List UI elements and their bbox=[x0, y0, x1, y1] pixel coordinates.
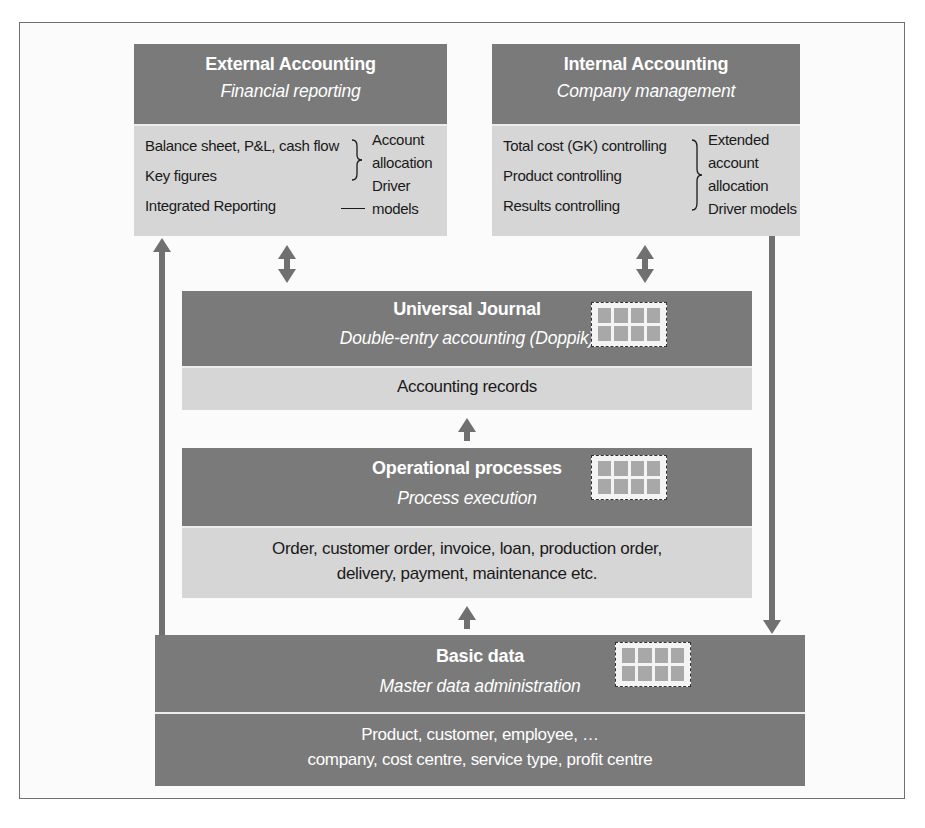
external-item: Integrated Reporting bbox=[145, 197, 276, 214]
internal-accounting-header: Internal Accounting Company management bbox=[492, 44, 800, 124]
external-note: Account bbox=[372, 131, 424, 148]
basic-data-box: Basic data Master data administration Pr… bbox=[155, 635, 805, 786]
table-grid-icon bbox=[591, 302, 667, 347]
external-item: Key figures bbox=[145, 167, 217, 184]
internal-note: Driver models bbox=[708, 200, 797, 217]
basic-data-body-line: Product, customer, employee, … bbox=[155, 722, 805, 747]
internal-accounting-body: Total cost (GK) controlling Product cont… bbox=[492, 124, 800, 236]
basic-data-subtitle: Master data administration bbox=[155, 676, 805, 697]
operational-body-line: Order, customer order, invoice, loan, pr… bbox=[182, 536, 752, 561]
universal-journal-box: Universal Journal Double-entry accountin… bbox=[182, 291, 752, 410]
external-accounting-box: External Accounting Financial reporting … bbox=[134, 44, 447, 236]
external-accounting-header: External Accounting Financial reporting bbox=[134, 44, 447, 124]
universal-journal-body-text: Accounting records bbox=[182, 377, 752, 397]
operational-body-line: delivery, payment, maintenance etc. bbox=[182, 561, 752, 586]
operational-processes-body: Order, customer order, invoice, loan, pr… bbox=[182, 526, 752, 598]
internal-item: Total cost (GK) controlling bbox=[503, 137, 667, 154]
external-item: Balance sheet, P&L, cash flow bbox=[145, 137, 339, 154]
internal-accounting-box: Internal Accounting Company management T… bbox=[492, 44, 800, 236]
internal-note: Extended bbox=[708, 131, 769, 148]
external-accounting-body: Balance sheet, P&L, cash flow Key figure… bbox=[134, 124, 447, 236]
external-accounting-subtitle: Financial reporting bbox=[134, 81, 447, 102]
internal-item: Results controlling bbox=[503, 197, 620, 214]
internal-accounting-title: Internal Accounting bbox=[492, 54, 800, 75]
external-note: models bbox=[372, 200, 419, 217]
basic-data-body: Product, customer, employee, … company, … bbox=[155, 712, 805, 786]
table-grid-icon bbox=[591, 455, 667, 500]
universal-journal-body: Accounting records bbox=[182, 366, 752, 410]
brace-icon bbox=[690, 138, 704, 212]
brace-icon bbox=[350, 138, 364, 182]
operational-processes-box: Operational processes Process execution … bbox=[182, 448, 752, 598]
internal-item: Product controlling bbox=[503, 167, 622, 184]
table-grid-icon bbox=[615, 642, 691, 687]
basic-data-body-line: company, cost centre, service type, prof… bbox=[155, 747, 805, 772]
external-note: allocation bbox=[372, 154, 432, 171]
external-accounting-title: External Accounting bbox=[134, 54, 447, 75]
internal-note: account bbox=[708, 154, 758, 171]
connector-line bbox=[341, 208, 365, 209]
internal-accounting-subtitle: Company management bbox=[492, 81, 800, 102]
basic-data-title: Basic data bbox=[155, 646, 805, 667]
external-note: Driver bbox=[372, 177, 410, 194]
internal-note: allocation bbox=[708, 177, 768, 194]
basic-data-header: Basic data Master data administration bbox=[155, 635, 805, 712]
